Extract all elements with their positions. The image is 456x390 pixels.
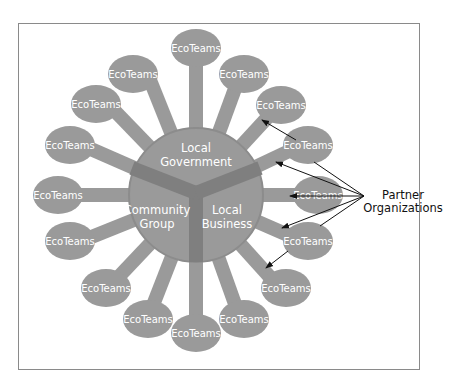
hub-label-business-2: Business — [202, 217, 253, 231]
node-label: EcoTeams — [256, 100, 306, 111]
node-label: EcoTeams — [45, 140, 95, 151]
callout-label-2: Organizations — [363, 201, 443, 215]
hub-label-government-1: Local — [181, 141, 211, 155]
node-label: EcoTeams — [171, 43, 221, 54]
callout-label-1: Partner — [382, 188, 424, 202]
node-label: EcoTeams — [261, 283, 311, 294]
hub-label-business-1: Local — [212, 203, 242, 217]
node-label: EcoTeams — [171, 328, 221, 339]
node-label: EcoTeams — [123, 314, 173, 325]
hub-label-community-2: Group — [139, 217, 174, 231]
eco-teams-diagram: Local Government Community Group Local B… — [0, 0, 456, 390]
node-label: EcoTeams — [283, 236, 333, 247]
hub-label-community-1: Community — [124, 203, 191, 217]
node-label: EcoTeams — [33, 190, 83, 201]
node-label: EcoTeams — [81, 283, 131, 294]
node-label: EcoTeams — [108, 69, 158, 80]
hub-label-government-2: Government — [160, 155, 232, 169]
node-label: EcoTeams — [219, 314, 269, 325]
node-label: EcoTeams — [45, 236, 95, 247]
node-label: EcoTeams — [71, 99, 121, 110]
node-label: EcoTeams — [219, 69, 269, 80]
node-label: EcoTeams — [283, 140, 333, 151]
